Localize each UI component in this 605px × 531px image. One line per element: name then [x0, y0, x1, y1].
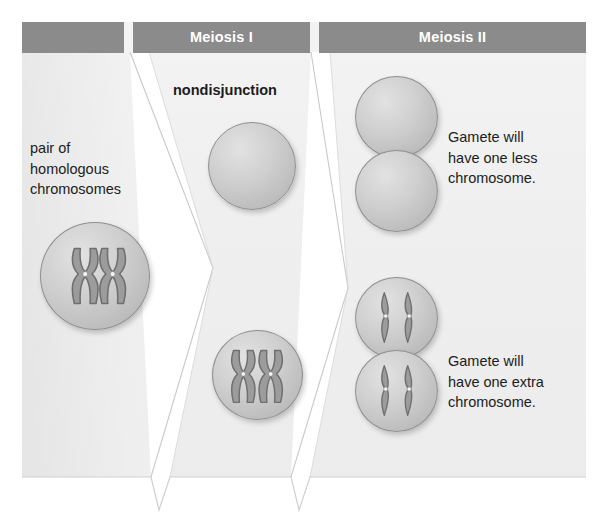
centromere-left — [384, 314, 388, 318]
centromere-left — [384, 387, 388, 391]
cell-meiosis2-gamete-2-empty — [355, 150, 438, 232]
label-gamete-one-extra-chromosome: Gamete will have one extra chromosome. — [448, 351, 598, 413]
meiosis-nondisjunction-diagram: Meiosis I Meiosis II pair of homologous … — [0, 0, 605, 531]
label-gamete-one-less-chromosome: Gamete will have one less chromosome. — [448, 127, 593, 189]
panel-baseline — [22, 477, 586, 510]
stage-bar-meiosis-i: Meiosis I — [133, 22, 310, 53]
chromosome-group-meiosis2-gamete-4 — [356, 351, 437, 431]
centromere-right — [268, 372, 273, 377]
centromere-right — [110, 271, 115, 276]
cell-meiosis2-gamete-4-extra — [355, 350, 438, 432]
cell-meiosis2-gamete-3-extra — [355, 277, 438, 359]
centromere-left — [241, 372, 246, 377]
stage-label-meiosis-ii: Meiosis II — [419, 30, 486, 45]
label-nondisjunction: nondisjunction — [173, 80, 277, 101]
cell-meiosis2-gamete-1-empty — [355, 76, 438, 158]
chromosome-group-meiosis2-gamete-3 — [356, 278, 437, 358]
cell-parent-diploid — [40, 222, 150, 330]
cell-meiosis1-top-empty — [208, 122, 296, 210]
centromere-right — [407, 314, 411, 318]
centromere-right — [407, 387, 411, 391]
chromosome-group-meiosis1-bottom — [213, 331, 302, 419]
label-pair-of-homologous-chromosomes: pair of homologous chromosomes — [30, 138, 150, 200]
stage-bar-premeiosis — [22, 22, 124, 53]
stage-bar-meiosis-ii: Meiosis II — [319, 22, 586, 53]
chromosome-group-parent — [41, 223, 149, 329]
centromere-left — [83, 271, 88, 276]
cell-meiosis1-bottom-nondisjunction — [212, 330, 303, 420]
stage-label-meiosis-i: Meiosis I — [190, 30, 253, 45]
